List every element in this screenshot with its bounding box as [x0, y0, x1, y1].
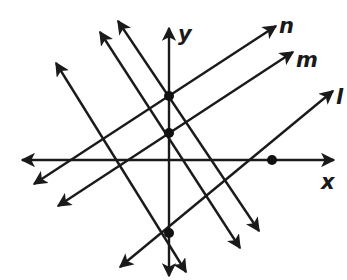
line-m: [58, 52, 293, 206]
line-m-label: m: [296, 48, 318, 72]
point-n-y-intersection: [164, 91, 174, 101]
line-n-label: n: [279, 14, 294, 38]
x-axis-label: x: [320, 170, 336, 194]
diagram-canvas: y x n m l: [0, 0, 347, 280]
transversal-3: [118, 21, 259, 231]
line-l-label: l: [336, 85, 344, 109]
point-l-x-intersection: [267, 155, 277, 165]
y-axis-label: y: [178, 22, 193, 46]
point-l-y-intersection: [164, 228, 174, 238]
point-m-y-intersection: [164, 128, 174, 138]
line-l: [120, 91, 333, 267]
